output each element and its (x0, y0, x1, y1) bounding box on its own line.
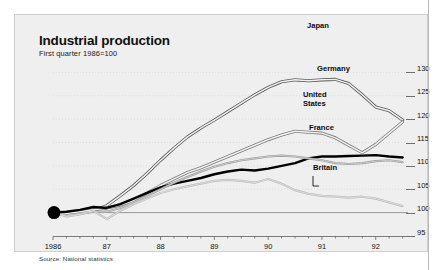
y-tick (406, 166, 415, 167)
y-tick (406, 213, 415, 214)
y-tick (406, 189, 415, 190)
series-label-japan: Japan (307, 21, 329, 30)
chart-panel: Industrial production First quarter 1986… (14, 14, 428, 252)
chart-screenshot: Industrial production First quarter 1986… (0, 0, 443, 270)
y-tick (406, 236, 415, 237)
series-germany (53, 122, 403, 214)
x-axis-label: 1986 (38, 242, 68, 251)
y-tick (406, 143, 415, 144)
series-britain (53, 179, 403, 219)
plot-area (37, 59, 412, 242)
page-title: Industrial production (39, 33, 170, 48)
x-axis-label: 91 (307, 242, 337, 251)
y-tick (406, 96, 415, 97)
origin-marker (48, 206, 61, 219)
series-label-united-states-line1: United (303, 90, 327, 99)
x-axis-label: 90 (253, 242, 283, 251)
series-label-germany: Germany (317, 64, 350, 73)
x-axis-label: 89 (199, 242, 229, 251)
line-chart-svg (37, 59, 412, 242)
y-tick (406, 72, 415, 73)
x-axis-label: 87 (92, 242, 122, 251)
x-axis-label: 92 (361, 242, 391, 251)
chart-subtitle: First quarter 1986=100 (39, 49, 117, 58)
series-label-britain: Britain (313, 163, 337, 172)
x-axis-label: 88 (146, 242, 176, 251)
source-note: Source: National statistics (39, 255, 113, 262)
y-tick (406, 119, 415, 120)
series-label-united-states-line2: States (303, 99, 326, 108)
series-label-france: France (309, 123, 334, 132)
right-rule-divider (428, 0, 429, 270)
